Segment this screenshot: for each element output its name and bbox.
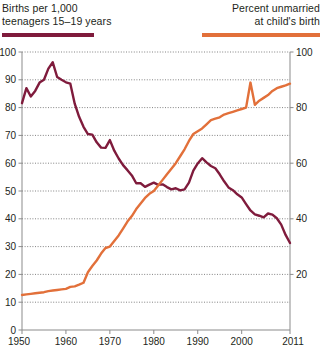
right-tick-label-80: 80 (296, 102, 308, 113)
legend-item-teen-birth-rate: Births per 1,000 teenagers 15–19 years (2, 2, 112, 37)
x-tick-label-2011: 2011 (282, 336, 304, 347)
right-tick-label-100: 100 (296, 47, 313, 58)
left-tick-label-10: 10 (5, 297, 17, 308)
chart-legend: Births per 1,000 teenagers 15–19 years P… (0, 0, 322, 40)
legend-swatch-percent-unmarried (202, 33, 320, 37)
left-tick-label-0: 0 (10, 325, 16, 336)
data-series (22, 62, 290, 295)
x-tick-label-1960: 1960 (55, 336, 78, 347)
series-line-percent-unmarried (22, 83, 290, 295)
left-tick-label-50: 50 (5, 186, 17, 197)
left-tick-label-100: 100 (0, 47, 16, 58)
legend-label-line2: teenagers 15–19 years (2, 15, 112, 28)
right-tick-label-60: 60 (296, 158, 308, 169)
left-tick-label-40: 40 (5, 213, 17, 224)
legend-item-percent-unmarried: Percent unmarried at child's birth (202, 2, 320, 37)
left-tick-label-90: 90 (5, 74, 17, 85)
plot-area: 0102030405060708090100204060801001950196… (0, 40, 322, 357)
left-tick-label-20: 20 (5, 269, 17, 280)
x-tick-label-1990: 1990 (187, 336, 210, 347)
legend-label-line2: at child's birth (202, 15, 320, 28)
legend-label-line1: Percent unmarried (202, 2, 320, 15)
x-tick-label-1970: 1970 (99, 336, 122, 347)
teen-birth-rate-chart: Births per 1,000 teenagers 15–19 years P… (0, 0, 322, 357)
left-tick-label-60: 60 (5, 158, 17, 169)
plot-svg: 0102030405060708090100204060801001950196… (0, 40, 322, 357)
legend-swatch-teen-birth-rate (2, 33, 94, 37)
legend-label-line1: Births per 1,000 (2, 2, 112, 15)
left-tick-label-30: 30 (5, 241, 17, 252)
left-tick-label-70: 70 (5, 130, 17, 141)
axis-labels: 0102030405060708090100204060801001950196… (0, 47, 313, 347)
right-tick-label-40: 40 (296, 213, 308, 224)
x-tick-label-2000: 2000 (231, 336, 254, 347)
x-tick-label-1980: 1980 (143, 336, 166, 347)
right-tick-label-20: 20 (296, 269, 308, 280)
left-tick-label-80: 80 (5, 102, 17, 113)
x-tick-label-1950: 1950 (8, 336, 31, 347)
